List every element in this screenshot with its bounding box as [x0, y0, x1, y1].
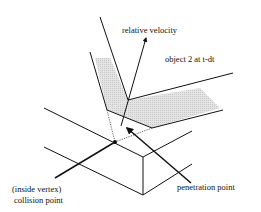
- object2-shaded-faces: [95, 58, 220, 128]
- collision-point-dot: [113, 140, 117, 144]
- label-inside-vertex: (inside vertex): [12, 184, 61, 194]
- label-penetration-point: penetration point: [177, 182, 235, 192]
- label-object2: object 2 at t-dt: [165, 54, 215, 64]
- collision-diagram: relative velocity object 2 at t-dt (insi…: [0, 0, 261, 212]
- label-relative-velocity: relative velocity: [122, 25, 178, 35]
- collision-pointer: [55, 140, 117, 178]
- label-collision-point: collision point: [14, 195, 64, 205]
